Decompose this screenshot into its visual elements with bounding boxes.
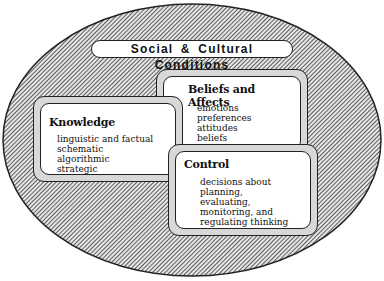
list-item: beliefs — [197, 133, 251, 143]
control-inner: Control decisions about planning, evalua… — [175, 151, 311, 229]
knowledge-items: linguistic and factual schematic algorit… — [57, 134, 153, 174]
list-item: evaluating, — [200, 197, 288, 207]
list-item: schematic — [57, 144, 153, 154]
social-cultural-conditions-label: Social & Cultural Conditions — [91, 40, 293, 58]
knowledge-box: Knowledge linguistic and factual schemat… — [33, 96, 183, 182]
list-item: emotions — [197, 103, 251, 113]
control-box: Control decisions about planning, evalua… — [168, 144, 318, 236]
list-item: planning, — [200, 187, 288, 197]
list-item: linguistic and factual — [57, 134, 153, 144]
list-item: regulating thinking — [200, 217, 288, 227]
knowledge-title: Knowledge — [49, 116, 115, 129]
list-item: strategic — [57, 164, 153, 174]
list-item: preferences — [197, 113, 251, 123]
knowledge-inner: Knowledge linguistic and factual schemat… — [40, 103, 176, 175]
list-item: attitudes — [197, 123, 251, 133]
beliefs-affects-inner: Beliefs and Affects emotions preferences… — [163, 76, 301, 150]
control-items: decisions about planning, evaluating, mo… — [200, 177, 288, 227]
beliefs-affects-items: emotions preferences attitudes beliefs — [197, 103, 251, 143]
list-item: algorithmic — [57, 154, 153, 164]
list-item: monitoring, and — [200, 207, 288, 217]
control-title: Control — [184, 158, 229, 171]
list-item: decisions about — [200, 177, 288, 187]
